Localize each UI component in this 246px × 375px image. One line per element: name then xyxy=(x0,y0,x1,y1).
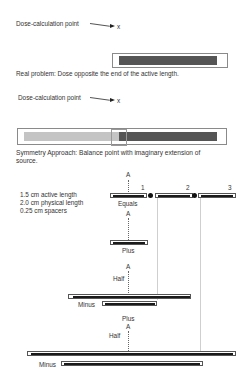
imaginary-extension-bar xyxy=(24,132,119,141)
guide-line xyxy=(200,198,201,356)
seed-core xyxy=(113,195,144,197)
label-minus: Minus xyxy=(78,301,95,309)
guide-line xyxy=(157,198,158,300)
seed-number-1: 1 xyxy=(141,184,145,192)
seed-core xyxy=(105,303,155,305)
active-length-bar xyxy=(119,56,217,65)
axis-line xyxy=(128,218,129,240)
seed-core xyxy=(73,296,190,298)
seed-core xyxy=(64,363,200,365)
active-length-bar xyxy=(119,132,217,141)
source-end-cap xyxy=(111,129,127,146)
axis-label-a: A xyxy=(126,263,130,271)
seed-number-2: 2 xyxy=(186,184,190,192)
label-minus: Minus xyxy=(39,361,56,369)
label-half: Half xyxy=(109,332,120,340)
arrow-icon xyxy=(110,98,115,102)
arrow-line xyxy=(90,23,110,27)
seed-core xyxy=(113,242,145,244)
dose-point-label: Dose-calculation point xyxy=(16,20,79,28)
seed-number-3: 3 xyxy=(228,184,232,192)
axis-label-a: A xyxy=(126,210,130,218)
axis-line xyxy=(128,271,129,293)
dose-point-marker: x xyxy=(117,23,120,31)
spec-active-length: 1.5 cm active length xyxy=(20,191,77,199)
spec-spacers: 0.25 cm spacers xyxy=(20,207,67,215)
axis-label-a: A xyxy=(126,323,130,331)
caption-symmetry: Symmetry Approach: Balance point with im… xyxy=(16,149,216,166)
label-plus: Plus xyxy=(122,247,134,255)
spacer-dot xyxy=(192,193,197,198)
axis-line xyxy=(128,331,129,351)
dose-point-label: Dose-calculation point xyxy=(18,94,81,102)
dose-point-marker: x xyxy=(117,97,120,105)
label-plus: Plus xyxy=(122,315,134,323)
seed-core xyxy=(201,195,233,197)
label-half: Half xyxy=(113,275,124,283)
seed-core xyxy=(158,195,190,197)
arrow-icon xyxy=(110,24,115,28)
spacer-dot xyxy=(148,193,153,198)
seed-core xyxy=(31,353,233,355)
spec-physical-length: 2.0 cm physical length xyxy=(20,199,83,207)
caption-real-problem: Real problem: Dose opposite the end of t… xyxy=(16,70,179,78)
label-equals: Equals xyxy=(118,200,138,208)
axis-label-a: A xyxy=(126,171,130,179)
arrow-line xyxy=(90,97,110,101)
